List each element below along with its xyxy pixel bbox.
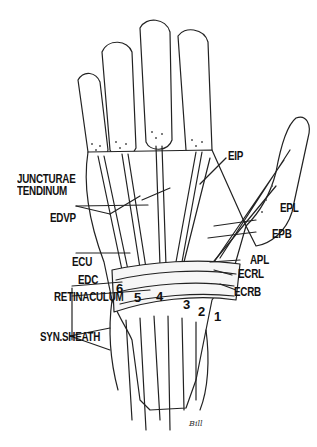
label-ecrl: ECRL [238, 268, 264, 280]
compartment-6: 6 [116, 282, 123, 295]
label-edc: EDC [78, 274, 98, 286]
hand-anatomy-figure: JUNCTURAE TENDINUM EDVP ECU EDC RETINACU… [0, 0, 317, 447]
label-ecrb: ECRB [234, 286, 261, 298]
label-ecu: ECU [72, 256, 92, 268]
compartment-1: 1 [214, 310, 221, 323]
label-epl: EPL [280, 202, 298, 214]
label-eip: EIP [228, 150, 243, 162]
label-apl: APL [250, 254, 269, 266]
artist-signature: Bill [189, 419, 203, 428]
label-syn-sheath: SYN.SHEATH [40, 331, 100, 343]
compartment-4: 4 [156, 290, 163, 303]
label-edqp: EDVP [50, 212, 76, 224]
label-tendinum: TENDINUM [17, 185, 67, 197]
compartment-3: 3 [183, 298, 190, 311]
label-retinaculum: RETINACULUM [54, 291, 123, 303]
compartment-5: 5 [134, 291, 141, 304]
hand-illustration [0, 0, 317, 447]
label-epb: EPB [272, 228, 292, 240]
compartment-2: 2 [198, 305, 205, 318]
